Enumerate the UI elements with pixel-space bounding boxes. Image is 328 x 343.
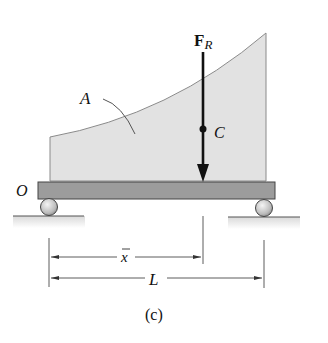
force-label: FR [194,31,212,52]
distributed-load-diagram: FR C A O x L (c) [0,0,328,343]
roller-right [256,200,273,217]
roller-left [41,199,58,216]
beam [38,182,275,199]
centroid-label: C [214,124,225,141]
figure-caption: (c) [145,306,163,324]
centroid-point [200,126,207,133]
ground-shade-right [228,217,300,229]
length-label: L [148,270,158,289]
area-label: A [79,89,91,108]
xbar-label: x [120,249,128,265]
ground-shade-left [13,216,85,228]
origin-label: O [16,182,28,199]
